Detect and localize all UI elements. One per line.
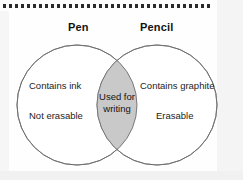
- divider-dot: [195, 4, 198, 8]
- divider-dot: [153, 4, 156, 8]
- divider-dot: [177, 4, 180, 8]
- divider-dot: [165, 4, 168, 8]
- divider-dot: [69, 4, 72, 8]
- venn-left-item-not-erasable: Not erasable: [29, 110, 83, 121]
- divider-dot: [183, 4, 186, 8]
- divider-dot: [147, 4, 150, 8]
- venn-intersection-label-line2: writing: [98, 103, 136, 115]
- divider-dot: [159, 4, 162, 8]
- divider-dot: [117, 4, 120, 8]
- venn-left-item-contains-ink: Contains ink: [29, 80, 81, 91]
- divider-dot: [57, 4, 60, 8]
- venn-right-item-contains-graphite: Contains graphite: [140, 80, 214, 91]
- divider-dot: [105, 4, 108, 8]
- divider-dot: [141, 4, 144, 8]
- venn-set-title-left: Pen: [68, 21, 89, 33]
- divider-dot: [15, 4, 18, 8]
- divider-dot: [87, 4, 90, 8]
- divider-dot: [123, 4, 126, 8]
- divider-dot: [51, 4, 54, 8]
- divider-dot: [45, 4, 48, 8]
- divider-dot: [129, 4, 132, 8]
- divider-dot: [9, 4, 12, 8]
- divider-dot: [93, 4, 96, 8]
- divider-dot: [201, 4, 204, 8]
- divider-dot: [99, 4, 102, 8]
- divider-dot: [207, 4, 210, 8]
- divider-dot: [111, 4, 114, 8]
- divider-dot: [39, 4, 42, 8]
- divider-dot: [27, 4, 30, 8]
- dotted-divider-rule: [3, 4, 215, 9]
- venn-set-title-right: Pencil: [140, 21, 174, 33]
- venn-intersection-label: Used for writing: [98, 91, 136, 115]
- venn-intersection-label-line1: Used for: [98, 91, 136, 103]
- divider-dot: [135, 4, 138, 8]
- divider-dot: [189, 4, 192, 8]
- divider-dot: [3, 4, 6, 8]
- divider-dot: [21, 4, 24, 8]
- venn-stage: Pen Pencil Contains ink Not erasable Con…: [0, 11, 243, 180]
- divider-dot: [33, 4, 36, 8]
- divider-dot: [63, 4, 66, 8]
- divider-dot: [81, 4, 84, 8]
- divider-dot: [171, 4, 174, 8]
- venn-right-item-erasable: Erasable: [156, 110, 194, 121]
- divider-dot: [75, 4, 78, 8]
- venn-diagram-page: Pen Pencil Contains ink Not erasable Con…: [0, 0, 243, 180]
